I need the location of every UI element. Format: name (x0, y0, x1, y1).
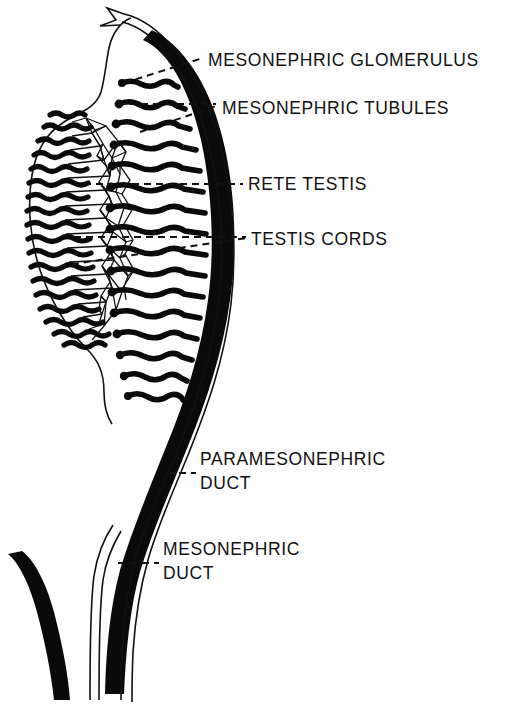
paramesonephric-duct-arrowhead (100, 8, 124, 26)
testis-cord (34, 153, 89, 158)
gonad-outline (30, 18, 131, 424)
mesonephric-tubule (114, 143, 196, 150)
lower-branch-duct-group (8, 551, 70, 700)
mesonephric-tubule (114, 311, 200, 318)
testis-cord (38, 139, 89, 144)
label-paramesonephric-duct-line1: PARAMESONEPHRIC (200, 449, 386, 469)
label-mesonephric-glomerulus: MESONEPHRIC GLOMERULUS (208, 50, 479, 70)
gonad-outline-group (30, 18, 131, 424)
label-rete-testis: RETE TESTIS (248, 174, 367, 194)
mesonephric-tubule (128, 394, 183, 400)
figure-canvas: MESONEPHRIC GLOMERULUS MESONEPHRIC TUBUL… (0, 0, 510, 708)
testis-cord (29, 181, 88, 186)
mesonephric-tubule (120, 353, 192, 360)
testis-cord (27, 209, 87, 214)
mesonephric-tubule (122, 81, 178, 87)
mesonephric-duct (105, 30, 234, 694)
testis-cord (27, 223, 89, 228)
testis-cord (46, 320, 103, 325)
testis-cord (33, 279, 94, 284)
label-mesonephric-duct-line1: MESONEPHRIC (163, 539, 300, 559)
mesonephric-tubule (112, 164, 200, 171)
label-testis-cords: TESTIS CORDS (251, 229, 388, 249)
mesonephric-tubule (110, 227, 206, 234)
testis-cord (44, 125, 91, 129)
testis-cords-group (27, 113, 109, 348)
testis-cord (40, 307, 99, 312)
testis-cord (29, 251, 91, 256)
mesonephric-tubule (119, 102, 185, 109)
mesonephric-tubule (124, 374, 187, 381)
lower-left-duct-branch (8, 551, 70, 700)
mesonephric-tubule (110, 206, 205, 213)
testis-cord (28, 195, 88, 200)
testis-cord (64, 343, 105, 348)
testis-cord (31, 167, 87, 172)
label-paramesonephric-duct-line2: DUCT (200, 473, 251, 493)
mesonephric-duct-group (105, 30, 234, 694)
testis-cord (50, 113, 85, 117)
anatomical-diagram-svg: MESONEPHRIC GLOMERULUS MESONEPHRIC TUBUL… (0, 0, 510, 708)
mesonephric-tubule (117, 332, 197, 339)
testis-cord (36, 293, 96, 298)
label-mesonephric-duct-line2: DUCT (163, 563, 214, 583)
label-mesonephric-tubules: MESONEPHRIC TUBULES (222, 98, 449, 118)
testis-cord (54, 332, 109, 337)
